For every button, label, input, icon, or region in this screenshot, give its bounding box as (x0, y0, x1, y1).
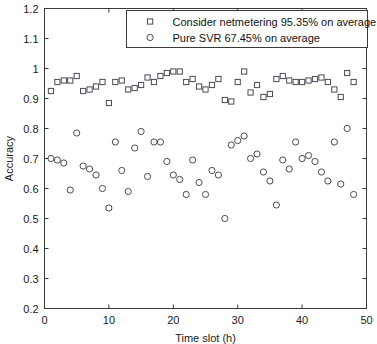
data-point-square (68, 78, 73, 83)
data-point-circle (138, 128, 144, 134)
data-point-circle (112, 139, 118, 145)
data-point-square (126, 87, 131, 92)
x-tick-label: 40 (296, 314, 308, 326)
y-tick-label: 0.7 (23, 153, 38, 165)
x-tick-label: 0 (41, 314, 47, 326)
data-point-square (332, 87, 337, 92)
data-point-square (100, 79, 105, 84)
data-point-circle (170, 172, 176, 178)
data-point-circle (318, 169, 324, 175)
data-point-square (209, 82, 214, 87)
data-point-circle (338, 181, 344, 187)
legend-label-1: Pure SVR 67.45% on average (173, 32, 320, 44)
data-point-square (248, 90, 253, 95)
data-point-square (139, 82, 144, 87)
data-point-circle (280, 157, 286, 163)
data-point-square (300, 79, 305, 84)
data-point-circle (99, 185, 105, 191)
data-point-circle (106, 205, 112, 211)
data-point-circle (157, 139, 163, 145)
data-point-square (280, 73, 285, 78)
data-point-square (74, 73, 79, 78)
data-point-circle (241, 133, 247, 139)
data-point-circle (209, 167, 215, 173)
data-point-square (222, 97, 227, 102)
y-tick-label: 0.5 (23, 213, 38, 225)
y-tick-label: 0.9 (23, 93, 38, 105)
data-point-square (261, 94, 266, 99)
data-point-square (235, 79, 240, 84)
legend-label-0: Consider netmetering 95.35% on average (173, 16, 377, 28)
data-point-square (93, 84, 98, 89)
data-point-square (293, 79, 298, 84)
data-point-circle (215, 172, 221, 178)
y-tick-label: 1.2 (23, 3, 38, 15)
data-point-circle (228, 142, 234, 148)
data-point-circle (190, 157, 196, 163)
data-point-square (338, 94, 343, 99)
y-tick-label: 0.3 (23, 273, 38, 285)
data-point-square (216, 76, 221, 81)
data-point-circle (183, 191, 189, 197)
x-tick-label: 50 (360, 314, 372, 326)
data-point-circle (325, 178, 331, 184)
data-point-square (171, 69, 176, 74)
data-point-square (306, 78, 311, 83)
data-point-square (132, 85, 137, 90)
data-point-circle (247, 155, 253, 161)
data-point-square (254, 82, 259, 87)
y-tick-label: 0.8 (23, 123, 38, 135)
data-point-circle (86, 166, 92, 172)
data-point-circle (125, 188, 131, 194)
data-point-circle (286, 166, 292, 172)
data-point-square (229, 99, 234, 104)
data-point-circle (351, 191, 357, 197)
data-point-circle (196, 179, 202, 185)
data-point-square (177, 69, 182, 74)
data-point-square (164, 70, 169, 75)
data-point-circle (119, 167, 125, 173)
data-point-square (190, 76, 195, 81)
data-point-square (151, 79, 156, 84)
data-point-circle (144, 173, 150, 179)
x-axis-title: Time slot (h) (175, 332, 236, 344)
data-point-square (61, 78, 66, 83)
series-pure-svr (48, 125, 357, 221)
data-point-square (119, 78, 124, 83)
data-point-square (242, 69, 247, 74)
data-point-circle (305, 152, 311, 158)
y-tick-label: 0.4 (23, 243, 38, 255)
data-point-circle (67, 187, 73, 193)
data-point-square (325, 79, 330, 84)
y-tick-label: 1 (32, 63, 38, 75)
data-point-circle (222, 215, 228, 221)
x-tick-label: 10 (103, 314, 115, 326)
data-point-circle (273, 202, 279, 208)
data-point-square (267, 91, 272, 96)
data-point-circle (312, 158, 318, 164)
data-point-circle (299, 155, 305, 161)
data-point-circle (54, 157, 60, 163)
data-point-circle (93, 172, 99, 178)
scatter-plot: 0.20.30.40.50.60.70.80.911.11.2010203040… (0, 0, 377, 344)
data-point-circle (48, 155, 54, 161)
data-point-circle (235, 137, 241, 143)
data-point-circle (331, 139, 337, 145)
data-point-square (48, 88, 53, 93)
y-axis-title: Accuracy (3, 135, 15, 181)
data-point-circle (267, 178, 273, 184)
data-point-square (345, 70, 350, 75)
data-point-square (158, 73, 163, 78)
data-point-circle (74, 130, 80, 136)
data-point-square (55, 79, 60, 84)
plot-frame (45, 9, 367, 309)
series-netmetering (48, 69, 356, 106)
data-point-square (106, 100, 111, 105)
data-point-circle (260, 169, 266, 175)
data-point-square (312, 76, 317, 81)
y-tick-label: 0.6 (23, 183, 38, 195)
data-point-square (319, 75, 324, 80)
data-point-square (113, 79, 118, 84)
data-point-circle (293, 139, 299, 145)
data-point-square (351, 79, 356, 84)
